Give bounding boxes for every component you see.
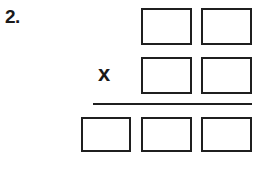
product-tens-box[interactable] [141,117,192,152]
multiplier-ones-box[interactable] [201,57,252,94]
multiplicand-tens-box[interactable] [141,8,192,45]
product-ones-box[interactable] [201,117,252,152]
answer-rule-line [93,103,252,105]
multiplier-tens-box[interactable] [141,57,192,94]
multiplication-problem-worksheet: 2. x [0,0,268,170]
multiplicand-ones-box[interactable] [201,8,252,45]
multiplication-operator-symbol: x [94,63,114,85]
problem-number-label: 2. [5,7,20,26]
product-hundreds-box[interactable] [81,117,131,152]
